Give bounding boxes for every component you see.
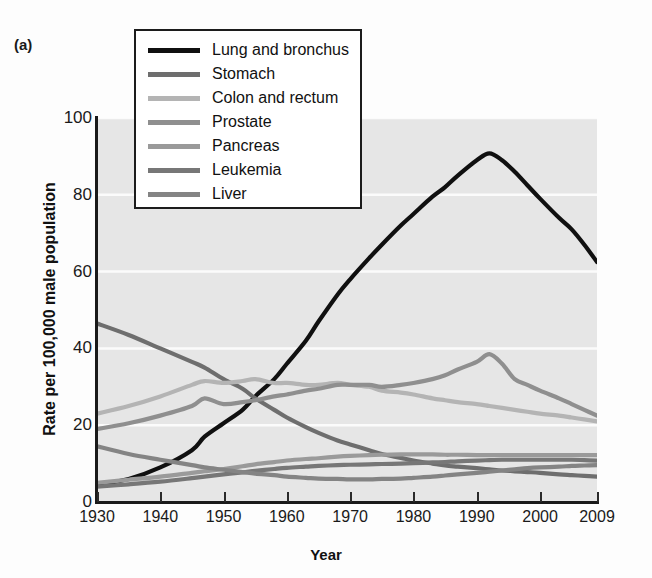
legend-color-swatch <box>148 72 200 77</box>
x-axis-tick-mark <box>160 492 162 502</box>
legend-color-swatch <box>148 48 200 53</box>
legend-item-label: Prostate <box>212 114 272 130</box>
x-axis-tick-mark <box>287 492 289 502</box>
figure-panel: (a) Rate per 100,000 male population 020… <box>0 0 652 578</box>
y-axis-tick-label: 80 <box>46 186 92 203</box>
x-axis-tick-label: 1990 <box>447 508 507 526</box>
legend-color-swatch <box>148 168 200 173</box>
legend-item[interactable]: Lung and bronchus <box>136 38 360 62</box>
x-axis-tick-mark <box>224 492 226 502</box>
x-axis-tick-label: 2000 <box>510 508 570 526</box>
legend-item[interactable]: Pancreas <box>136 134 360 158</box>
legend-item-label: Pancreas <box>212 138 280 154</box>
legend-color-swatch <box>148 96 200 101</box>
x-axis-tick-mark <box>350 492 352 502</box>
legend-color-swatch <box>148 120 200 125</box>
x-axis-tick-label: 1950 <box>194 508 254 526</box>
x-axis-title: Year <box>0 546 652 563</box>
x-axis-tick-label: 1930 <box>67 508 127 526</box>
y-axis-tick-label: 40 <box>46 339 92 356</box>
y-axis-tick-label: 100 <box>46 109 92 126</box>
x-axis-tick-mark <box>97 492 99 502</box>
x-axis-tick-label: 1940 <box>130 508 190 526</box>
x-axis-tick-label: 1960 <box>257 508 317 526</box>
legend-item-label: Leukemia <box>212 162 281 178</box>
legend-item[interactable]: Prostate <box>136 110 360 134</box>
legend-color-swatch <box>148 192 200 197</box>
x-axis-tick-label: 1970 <box>320 508 380 526</box>
legend-item[interactable]: Colon and rectum <box>136 86 360 110</box>
y-axis-ticks: 020406080100 <box>42 0 92 578</box>
legend-item[interactable]: Liver <box>136 182 360 206</box>
y-axis-line <box>95 116 98 504</box>
x-axis-tick-label: 1980 <box>383 508 443 526</box>
x-axis-tick-mark <box>597 492 599 502</box>
y-axis-tick-label: 60 <box>46 263 92 280</box>
x-axis-tick-mark <box>540 492 542 502</box>
legend-item-label: Liver <box>212 186 247 202</box>
legend-item[interactable]: Stomach <box>136 62 360 86</box>
chart-legend: Lung and bronchusStomachColon and rectum… <box>134 29 362 209</box>
legend-color-swatch <box>148 144 200 149</box>
x-axis-tick-mark <box>477 492 479 502</box>
legend-item-label: Lung and bronchus <box>212 42 349 58</box>
legend-item-label: Stomach <box>212 66 275 82</box>
legend-item[interactable]: Leukemia <box>136 158 360 182</box>
legend-item-label: Colon and rectum <box>212 90 338 106</box>
x-axis-line <box>95 501 599 504</box>
panel-label: (a) <box>14 36 32 53</box>
x-axis-tick-label: 2009 <box>567 508 627 526</box>
y-axis-tick-label: 20 <box>46 416 92 433</box>
x-axis-tick-mark <box>413 492 415 502</box>
